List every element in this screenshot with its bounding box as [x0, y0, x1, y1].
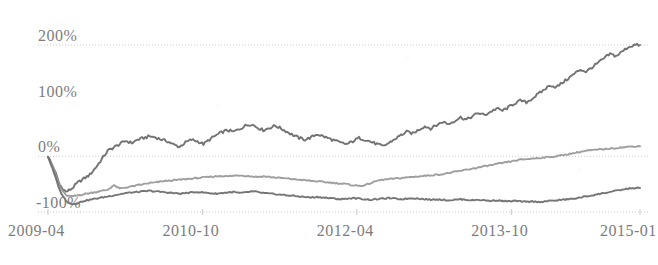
y-axis-tick-label-0: 0% [38, 138, 60, 156]
x-axis-tick-label-2013-10: 2013-10 [471, 222, 528, 240]
x-axis-tick-label-2015-01: 2015-01 [600, 222, 657, 240]
line-series-bottom [48, 157, 640, 205]
x-axis-tick-label-2009-04: 2009-04 [8, 222, 65, 240]
y-axis-tick-label-200: 200% [38, 27, 77, 45]
y-axis-tick-label-neg100: -100% [36, 194, 81, 212]
line-series-top [48, 44, 640, 192]
x-axis-tick-label-2010-10: 2010-10 [162, 222, 219, 240]
y-axis-tick-label-100: 100% [38, 83, 77, 101]
data-series-lines [48, 44, 640, 205]
percent-return-line-chart: 200% 100% 0% -100% 2009-04 2010-10 2012-… [0, 0, 658, 265]
x-axis-tick-label-2012-04: 2012-04 [317, 222, 374, 240]
line-series-middle [48, 146, 640, 196]
